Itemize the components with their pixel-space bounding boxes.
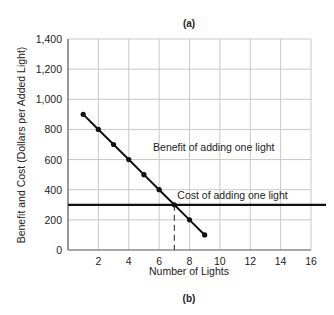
x-axis-label: Number of Lights bbox=[149, 265, 229, 277]
y-tick-label: 1,000 bbox=[36, 93, 62, 105]
benefit-data-point bbox=[202, 232, 207, 237]
y-tick-label: 200 bbox=[44, 214, 62, 226]
benefit-line-label: Benefit of adding one light bbox=[153, 141, 275, 153]
x-tick-label: 16 bbox=[305, 255, 317, 267]
benefit-data-point bbox=[96, 127, 101, 132]
y-tick-label: 400 bbox=[44, 184, 62, 196]
y-axis-label: Benefit and Cost (Dollars per Added Ligh… bbox=[15, 47, 27, 244]
series-lines bbox=[68, 112, 326, 250]
benefit-data-point bbox=[126, 157, 131, 162]
chart-title: (a) bbox=[183, 18, 195, 29]
benefit-data-point bbox=[187, 217, 192, 222]
caption-label: (b) bbox=[183, 293, 196, 304]
benefit-data-point bbox=[141, 172, 146, 177]
benefit-data-point bbox=[157, 187, 162, 192]
cost-line-label: Cost of adding one light bbox=[177, 189, 287, 201]
benefit-data-point bbox=[81, 112, 86, 117]
y-tick-label: 1,200 bbox=[36, 63, 62, 75]
benefit-data-point bbox=[172, 202, 177, 207]
y-tick-label: 600 bbox=[44, 154, 62, 166]
y-tick-label: 800 bbox=[44, 123, 62, 135]
y-tick-labels: 02004006008001,0001,2001,400 bbox=[36, 33, 62, 256]
y-tick-label: 0 bbox=[56, 244, 62, 256]
x-tick-label: 12 bbox=[244, 255, 256, 267]
y-tick-label: 1,400 bbox=[36, 33, 62, 45]
x-tick-label: 14 bbox=[275, 255, 287, 267]
chart: 02004006008001,0001,2001,400 24681012141… bbox=[0, 0, 334, 315]
x-tick-label: 4 bbox=[126, 255, 132, 267]
benefit-data-point bbox=[111, 142, 116, 147]
x-tick-label: 2 bbox=[95, 255, 101, 267]
